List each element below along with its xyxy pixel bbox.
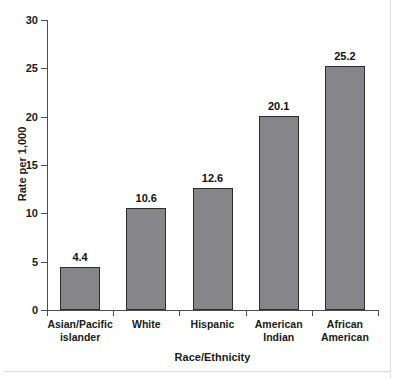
bar: [193, 188, 233, 310]
y-axis-tick: [41, 213, 47, 214]
bar-value-label: 10.6: [116, 193, 176, 204]
y-axis-tick-label: 15: [8, 160, 38, 171]
y-axis-tick: [41, 117, 47, 118]
y-axis-tick-label: 25: [8, 63, 38, 74]
y-axis-tick-label: 20: [8, 112, 38, 123]
y-axis-tick-label: 5: [8, 257, 38, 268]
y-axis-line: [47, 20, 48, 311]
bar-value-label: 4.4: [50, 252, 110, 263]
y-axis-tick-label: 10: [8, 208, 38, 219]
bar-chart: Rate per 1,000 Race/Ethnicity 0510152025…: [0, 0, 395, 379]
bar-value-label: 20.1: [249, 101, 309, 112]
x-axis-tick: [246, 310, 247, 316]
x-axis-category-label: African American: [305, 318, 385, 344]
y-axis-tick: [41, 165, 47, 166]
x-axis-tick: [113, 310, 114, 316]
x-axis-title: Race/Ethnicity: [47, 351, 378, 363]
bar: [259, 116, 299, 310]
chart-page: Rate per 1,000 Race/Ethnicity 0510152025…: [0, 0, 395, 379]
x-axis-line: [47, 310, 378, 311]
bar: [325, 66, 365, 310]
bar: [60, 267, 100, 310]
y-axis-tick-label: 0: [8, 305, 38, 316]
bar-value-label: 12.6: [183, 173, 243, 184]
bar: [126, 208, 166, 310]
y-axis-tick: [41, 262, 47, 263]
x-axis-tick: [179, 310, 180, 316]
y-axis-tick: [41, 68, 47, 69]
x-axis-tick: [47, 310, 48, 316]
y-axis-tick-label: 30: [8, 15, 38, 26]
y-axis-tick: [41, 20, 47, 21]
x-axis-tick: [378, 310, 379, 316]
x-axis-tick: [312, 310, 313, 316]
bar-value-label: 25.2: [315, 51, 375, 62]
